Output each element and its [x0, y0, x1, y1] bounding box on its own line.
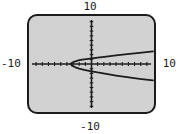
axis-label-right: 10: [163, 58, 176, 69]
axis-label-top: 10: [2, 1, 178, 12]
axis-label-left: -10: [1, 58, 21, 69]
calculator-graph-figure: 10 -10 10 -10: [0, 0, 178, 134]
calculator-screen: [27, 14, 156, 114]
axis-label-bottom: -10: [2, 121, 178, 132]
plot-svg: [27, 14, 156, 114]
